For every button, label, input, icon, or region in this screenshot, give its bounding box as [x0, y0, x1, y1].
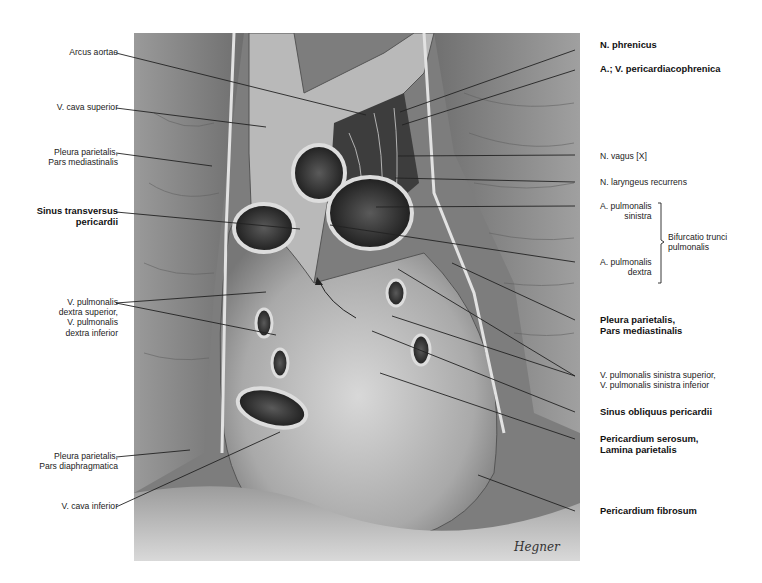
label-pleura-pars-diaphragmatica: Pleura parietalis, Pars diaphragmatica: [39, 451, 118, 471]
label-sinus-transversus: Sinus transversus pericardii: [37, 205, 118, 227]
label-pleura-pars-mediastinalis-right: Pleura parietalis, Pars mediastinalis: [600, 314, 682, 336]
anatomical-illustration: [134, 33, 580, 561]
label-v-cava-inferior: V. cava inferior: [61, 501, 118, 511]
label-v-cava-superior: V. cava superior: [57, 102, 118, 112]
label-pericardium-fibrosum: Pericardium fibrosum: [600, 505, 697, 516]
label-v-pulmonalis-sinistra: V. pulmonalis sinistra superior, V. pulm…: [600, 370, 716, 390]
label-pleura-pars-mediastinalis-left: Pleura parietalis, Pars mediastinalis: [48, 147, 118, 167]
label-pericardium-serosum: Pericardium serosum, Lamina parietalis: [600, 433, 698, 455]
label-a-pulmonalis-sinistra: A. pulmonalis sinistra: [600, 201, 652, 221]
label-sinus-obliquus: Sinus obliquus pericardii: [600, 406, 712, 417]
label-n-vagus: N. vagus [X]: [600, 151, 647, 161]
label-bifurcatio-trunci-pulmonalis: Bifurcatio trunci pulmonalis: [668, 232, 727, 252]
label-v-pulmonalis-dextra: V. pulmonalis dextra superior, V. pulmon…: [59, 297, 118, 338]
pericardium-drawing: [134, 33, 580, 561]
label-a-v-pericardiacophrenica: A.; V. pericardiacophrenica: [600, 63, 721, 74]
label-a-pulmonalis-dextra: A. pulmonalis dextra: [600, 257, 652, 277]
artist-signature: Hegner: [514, 540, 560, 554]
label-arcus-aortae: Arcus aortae: [69, 47, 118, 57]
label-n-phrenicus: N. phrenicus: [600, 39, 657, 50]
label-n-laryngeus-recurrens: N. laryngeus recurrens: [600, 177, 687, 187]
